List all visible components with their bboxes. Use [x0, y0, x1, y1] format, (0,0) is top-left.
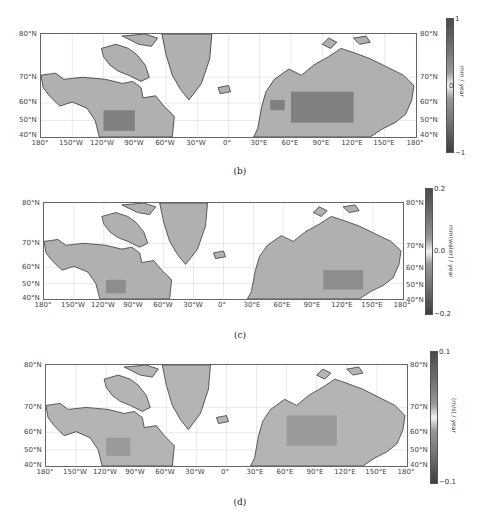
lat-label-right: 60°N	[410, 428, 428, 436]
panel-d: 80°N 70°N 60°N 50°N 40°N 80°N 70°N 60°N …	[0, 0, 482, 516]
lon-label: 180°	[37, 468, 54, 476]
colorbar-max: 0.1	[439, 348, 450, 356]
lat-label-right: 70°N	[410, 403, 428, 411]
map-graphic	[46, 365, 407, 466]
lat-label-left: 80°N	[24, 361, 42, 369]
lon-label: 60°E	[277, 468, 294, 476]
lat-label-right: 80°N	[410, 361, 428, 369]
lon-label: 30°E	[247, 468, 264, 476]
lat-label-left: 50°N	[24, 446, 42, 454]
lon-label: 150°E	[365, 468, 386, 476]
lon-label: 60°W	[155, 468, 174, 476]
colorbar-min: −0.1	[439, 478, 456, 486]
lon-label: 120°E	[334, 468, 355, 476]
map-d	[45, 364, 408, 467]
lon-label: 180°	[398, 468, 415, 476]
lon-label: 30°W	[185, 468, 204, 476]
lon-label: 120°W	[93, 468, 117, 476]
panel-caption: (d)	[234, 497, 247, 507]
lon-label: 150°W	[63, 468, 87, 476]
lon-label: 90°E	[307, 468, 324, 476]
colorbar-d	[430, 351, 438, 484]
colorbar-unit: (m/s) / year	[451, 398, 458, 433]
lon-label: 0°	[221, 468, 229, 476]
lat-label-left: 60°N	[24, 428, 42, 436]
lat-label-left: 70°N	[24, 403, 42, 411]
lat-label-right: 50°N	[410, 446, 428, 454]
lon-label: 90°W	[125, 468, 144, 476]
